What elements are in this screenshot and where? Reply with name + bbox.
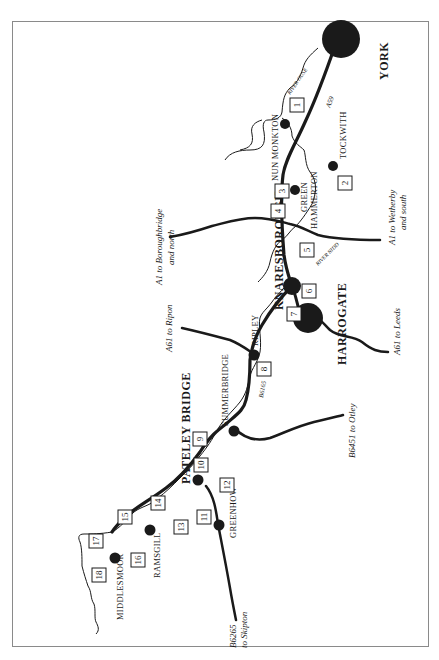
label-a1-south-1: A1 to Wetherby xyxy=(387,190,397,246)
waypoint-1: 1 xyxy=(290,98,304,112)
label-green-hammerton-2: HAMMERTON xyxy=(309,171,319,229)
label-green-hammerton-1: GREEN xyxy=(299,182,309,212)
waypoint-15: 15 xyxy=(118,510,132,524)
svg-text:14: 14 xyxy=(153,498,163,508)
summerbridge-marker xyxy=(229,426,240,437)
waypoint-10: 10 xyxy=(194,458,208,472)
label-a1-north-2: and north xyxy=(166,229,176,265)
waypoint-7: 7 xyxy=(287,307,301,321)
svg-text:8: 8 xyxy=(259,366,269,371)
label-york: YORK xyxy=(377,42,391,80)
waypoint-12: 12 xyxy=(220,478,234,492)
label-middlesmoor: MIDDLESMOOR xyxy=(115,553,125,620)
svg-text:7: 7 xyxy=(289,311,299,316)
svg-text:6: 6 xyxy=(304,288,314,293)
road-b6165 xyxy=(112,286,292,532)
label-summerbridge: SUMMERBRIDGE xyxy=(220,354,230,426)
svg-text:12: 12 xyxy=(222,481,232,490)
road-a61-ripon xyxy=(182,328,254,354)
label-a61-ripon: A61 to Ripon xyxy=(164,304,174,353)
greenhow-marker xyxy=(214,520,225,531)
svg-text:4: 4 xyxy=(273,208,283,213)
label-b6265-1: B6265 xyxy=(228,624,238,648)
york-marker xyxy=(322,20,360,58)
pateley-bridge-marker xyxy=(193,475,204,486)
waypoint-5: 5 xyxy=(300,243,314,257)
svg-text:18: 18 xyxy=(94,570,104,580)
waypoint-6: 6 xyxy=(302,284,316,298)
label-river-ouse: RIVER OUSE xyxy=(285,66,308,96)
waypoint-18: 18 xyxy=(92,568,106,582)
svg-text:1: 1 xyxy=(292,103,302,108)
waypoint-17: 17 xyxy=(89,534,103,548)
ripley-marker xyxy=(249,350,260,361)
label-ramsgill: RAMSGILL xyxy=(152,532,162,578)
svg-text:13: 13 xyxy=(176,522,186,532)
label-a1-north-1: A1 to Boroughbridge xyxy=(154,209,164,286)
waypoint-9: 9 xyxy=(193,432,207,446)
waypoint-11: 11 xyxy=(197,510,211,524)
label-b6165: B6165 xyxy=(257,380,267,399)
waypoint-2: 2 xyxy=(338,176,352,190)
waypoint-13: 13 xyxy=(174,520,188,534)
label-b6265-2: to Skipton xyxy=(239,611,249,648)
waypoint-8: 8 xyxy=(257,362,271,376)
svg-text:5: 5 xyxy=(302,247,312,252)
svg-text:16: 16 xyxy=(133,555,143,565)
label-a1-south-2: and south xyxy=(398,194,408,230)
label-a61-leeds: A61 to Leeds xyxy=(392,308,402,356)
label-greenhow: GREENHOW xyxy=(228,487,238,538)
stream-nun-monkton xyxy=(240,120,262,150)
river-nidd-upper xyxy=(112,282,290,532)
label-nun-monkton: NUN MONKTON xyxy=(270,114,280,181)
nun-monkton-marker xyxy=(280,119,290,129)
tockwith-marker xyxy=(328,161,338,171)
label-ripley: RIPLEY xyxy=(250,314,260,346)
svg-text:17: 17 xyxy=(91,536,101,546)
svg-text:2: 2 xyxy=(340,181,350,186)
label-b6451: B6451 to Otley xyxy=(347,404,357,459)
svg-text:3: 3 xyxy=(277,188,287,193)
road-b6451 xyxy=(234,415,343,440)
route-map: YORK HARROGATE KNARESBOROUGH PATELEY BRI… xyxy=(0,0,439,660)
waypoint-14: 14 xyxy=(151,496,165,510)
svg-text:9: 9 xyxy=(195,436,205,441)
label-river-nidd: RIVER NIDD xyxy=(314,241,340,267)
label-pateley-bridge: PATELEY BRIDGE xyxy=(179,372,193,484)
settlements xyxy=(110,20,361,564)
svg-text:10: 10 xyxy=(196,460,206,470)
svg-text:11: 11 xyxy=(199,513,209,522)
label-harrogate: HARROGATE xyxy=(335,283,349,365)
waypoints: 1 2 3 4 5 6 7 8 9 10 11 12 13 14 15 16 1… xyxy=(89,98,352,582)
label-a59: A59 xyxy=(324,95,336,110)
waypoint-4: 4 xyxy=(271,204,285,218)
waypoint-3: 3 xyxy=(275,184,289,198)
waypoint-16: 16 xyxy=(131,553,145,567)
rivers xyxy=(79,48,318,634)
svg-text:15: 15 xyxy=(120,512,130,522)
label-tockwith: TOCKWITH xyxy=(338,111,348,159)
